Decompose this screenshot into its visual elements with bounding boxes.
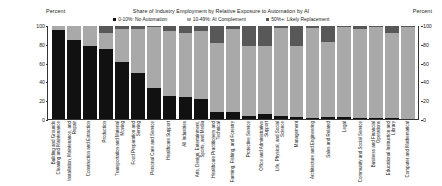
category-label-line: Support [265,121,270,183]
bar-column [258,26,272,119]
category-label-cell: Healthcare Practitioners andTechnical [210,121,224,185]
category-label-line: Science [281,121,286,183]
bar-column [210,26,224,119]
bar-segment [194,31,208,99]
category-label: Life, Physical, and SocialScience [276,121,286,183]
bar-column [131,26,145,119]
category-label-line: Sales and Related [326,121,331,183]
y-tick-mark [421,26,423,27]
bar-segment [353,118,367,119]
y-axis-left: 020406080100 [25,26,45,120]
category-label: Management [294,121,299,183]
bar-segment [115,29,129,62]
category-label-cell: Legal [338,121,352,185]
bar-segment [274,28,288,116]
y-tick-mark [421,82,423,83]
bar-segment [163,96,177,119]
y-tick-label: 60 [39,61,45,67]
y-tick-label: 80 [423,42,429,48]
bar-segment [99,49,113,119]
bar-column [274,26,288,119]
category-label: Architecture and Engineering [310,121,315,183]
category-label: Sales and Related [326,121,331,183]
bar-segment [306,118,320,119]
y-tick-mark [421,120,423,121]
category-label-line: Library [392,121,397,183]
bar-segment [321,26,335,42]
category-label: Food Preparation andServing [132,121,142,183]
category-label-line: Moving [121,121,126,183]
bar-segment [274,116,288,119]
bar-column [226,26,240,119]
category-label-cell: Building and GroundsCleaning and Mainten… [51,121,65,185]
legend-label: 0-10%: No Automation [118,17,167,22]
category-label: Construction and Extraction [87,121,92,183]
category-label-cell: Personal Care and Service [146,121,160,185]
category-label-cell: Architecture and Engineering [306,121,320,185]
legend-label: 10-49%: AI Complement [193,17,246,22]
bar-column [179,26,193,119]
bar-segment [242,46,256,117]
bar-segment [163,31,177,96]
category-label-cell: Life, Physical, and SocialScience [274,121,288,185]
category-label: Arts, Design, Entertainment,Sports, and … [196,121,206,183]
bar-segment [369,27,383,118]
legend-swatch-icon [266,18,270,22]
category-label: Educational Instruction andLibrary [388,121,398,183]
category-label-cell: Construction and Extraction [83,121,97,185]
chart-title: Share of Industry Employment by Relative… [0,8,442,14]
bar-segment [131,29,145,73]
bar-column [401,26,415,119]
category-label: All Industries [183,121,188,183]
category-label-cell: Arts, Design, Entertainment,Sports, and … [194,121,208,185]
category-label: Healthcare Practitioners andTechnical [212,121,222,183]
bar-segment [115,62,129,119]
bar-column [242,26,256,119]
bar-column [163,26,177,119]
category-label: Business and FinancialOperations [372,121,382,183]
bar-segment [290,117,304,119]
y-tick-label: 60 [423,61,429,67]
category-label-line: Technical [217,121,222,183]
y-tick-label: 20 [423,98,429,104]
bar-column [290,26,304,119]
legend-label: 50%+: Likely Replacement [271,17,329,22]
bar-segment [210,43,224,112]
y-tick-label: 40 [39,79,45,85]
category-label-cell: Office and AdministrativeSupport [258,121,272,185]
bar-segment [83,26,97,46]
category-label-cell: Production [98,121,112,185]
category-label-cell: Healthcare Support [162,121,176,185]
chart-legend: 0-10%: No Automation10-49%: AI Complemen… [0,17,442,22]
y-tick-label: 0 [423,117,426,123]
legend-entry: 50%+: Likely Replacement [266,17,330,22]
bar-column [147,26,161,119]
category-label-cell: Transportation and MaterialMoving [114,121,128,185]
bar-column [337,26,351,119]
bar-segment [242,26,256,46]
bar-column [369,26,383,119]
y-tick-label: 100 [423,23,432,29]
legend-swatch-icon [113,18,117,22]
category-label-cell: Computer and Mathematical [402,121,416,185]
stacked-bar-chart: Percent Percent Share of Industry Employ… [0,0,442,186]
y-tick-label: 100 [36,23,45,29]
bar-column [194,26,208,119]
bar-column [52,26,66,119]
category-label-line: Personal Care and Service [151,121,156,183]
category-label-line: Operations [377,121,382,183]
bar-segment [242,116,256,119]
category-label-cell: Installation, Maintenance, andRepair [67,121,81,185]
bar-segment [306,28,320,118]
category-label-line: Farming, Fishing, and Forestry [231,121,236,183]
bar-column [385,26,399,119]
legend-entry: 10-49%: AI Complement [187,17,246,22]
bar-segment [321,42,335,117]
category-label-line: All Industries [183,121,188,183]
bar-column [115,26,129,119]
category-label-cell: Community and Social Service [354,121,368,185]
category-label: Farming, Fishing, and Forestry [231,121,236,183]
y-axis-right: 020406080100 [420,26,440,120]
category-label: Office and AdministrativeSupport [260,121,270,183]
bar-series-container [48,26,418,119]
